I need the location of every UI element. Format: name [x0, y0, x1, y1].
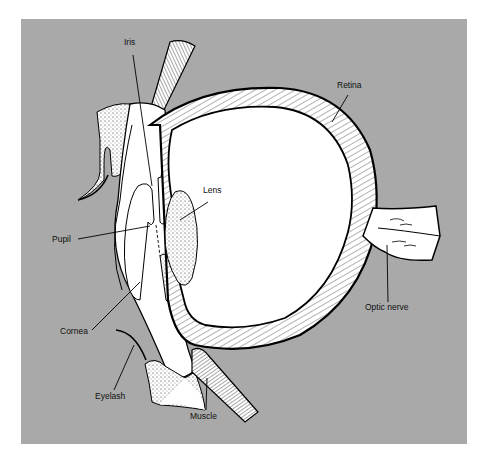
label-eyelash: Eyelash — [95, 392, 125, 401]
label-retina: Retina — [337, 81, 362, 90]
label-muscle: Muscle — [190, 412, 217, 421]
eye-diagram — [0, 0, 484, 464]
label-optic-nerve: Optic nerve — [365, 303, 408, 312]
label-cornea: Cornea — [60, 327, 88, 336]
label-iris: Iris — [124, 38, 135, 47]
label-lens: Lens — [203, 186, 221, 195]
optic-nerve-shape — [363, 206, 440, 260]
label-pupil: Pupil — [52, 235, 71, 244]
